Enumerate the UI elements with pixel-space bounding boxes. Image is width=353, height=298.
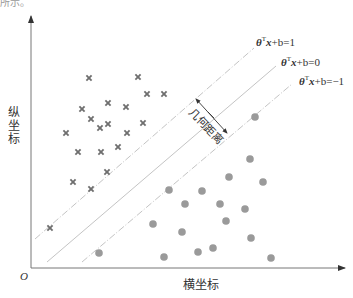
x-axis-label: 横坐标 — [183, 275, 219, 292]
boundary-line-lower — [82, 84, 292, 262]
y-axis-label: 纵坐标 — [4, 106, 21, 145]
origin-label: O — [20, 270, 28, 282]
svm-diagram — [0, 0, 353, 298]
boundary-label-upper: θTx+b=1 — [256, 35, 295, 48]
boundary-label-middle: θTx+b=0 — [281, 55, 320, 68]
positive-class-markers — [95, 113, 275, 262]
boundary-label-lower: θTx+b=−1 — [299, 74, 344, 87]
negative-class-markers — [47, 74, 166, 230]
